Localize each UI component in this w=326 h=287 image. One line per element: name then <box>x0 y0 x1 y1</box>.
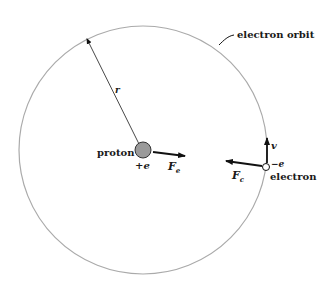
velocity-label: v <box>271 140 277 151</box>
electron-label: electron <box>270 171 317 182</box>
electron-charge-label: −e <box>271 159 285 169</box>
radius-line <box>87 39 140 146</box>
electric-force-arrow <box>153 152 185 156</box>
proton-icon <box>135 142 151 158</box>
proton-charge-label: +e <box>135 160 150 171</box>
centripetal-force-arrow <box>226 161 262 166</box>
electron-icon <box>263 164 270 171</box>
centripetal-force-label: Fc <box>231 169 245 184</box>
electric-force-label: Fe <box>167 160 181 175</box>
radius-label: r <box>115 85 121 95</box>
orbit-label: electron orbit <box>237 29 315 40</box>
bohr-atom-diagram: electron orbit r proton +e Fe v Fc −e el… <box>0 0 326 287</box>
orbit-leader-line <box>219 35 234 45</box>
proton-label: proton <box>97 147 135 158</box>
